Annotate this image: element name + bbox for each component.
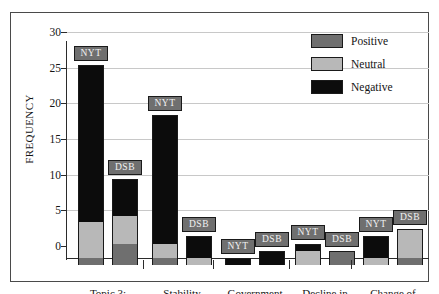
bar-group: NYTDSB	[219, 51, 291, 265]
y-tick-label: 0	[17, 241, 61, 251]
y-tick-15: 15	[11, 134, 61, 144]
bar-label-nyt: NYT	[359, 217, 393, 232]
x-axis-group-separator	[351, 260, 352, 269]
legend: PositiveNeutralNegative	[311, 31, 431, 100]
bar-segment-negative	[79, 66, 103, 222]
bar-segment-neutral	[398, 230, 422, 258]
bar-nyt[interactable]	[78, 65, 104, 265]
bar-segment-positive	[113, 244, 137, 265]
bar-dsb[interactable]	[112, 179, 138, 265]
bar-label-dsb: DSB	[182, 217, 216, 232]
bar-segment-negative	[113, 180, 137, 215]
bar-segment-neutral	[153, 244, 177, 258]
legend-item-negative[interactable]: Negative	[311, 77, 431, 96]
bar-nyt[interactable]	[225, 258, 251, 265]
legend-label: Neutral	[351, 58, 385, 70]
bar-label-dsb: DSB	[255, 232, 289, 247]
y-tick-0: 0	[11, 241, 61, 251]
y-tick-label: 20	[17, 98, 61, 108]
bar-segment-negative	[187, 237, 211, 258]
bar-segment-negative	[153, 116, 177, 244]
bar-group-bars: NYTDSB	[149, 51, 215, 265]
y-tick-label: 30	[17, 27, 61, 37]
bar-segment-neutral	[113, 216, 137, 244]
bar-group: NYTDSB	[71, 51, 145, 265]
chart-page: FREQUENCY 051015202530 NYTDSBTopic 3:Tot…	[0, 0, 439, 294]
bar-nyt[interactable]	[363, 236, 389, 265]
bar-segment-negative	[226, 259, 250, 265]
x-axis-group-separator	[143, 260, 144, 269]
legend-swatch-negative	[311, 80, 343, 94]
bar-dsb[interactable]	[397, 229, 423, 265]
bar-label-nyt: NYT	[74, 46, 108, 61]
bar-dsb[interactable]	[259, 251, 285, 265]
bar-segment-negative	[260, 252, 284, 265]
bar-segment-neutral	[79, 222, 103, 257]
bar-label-nyt: NYT	[291, 225, 325, 240]
y-tick-20: 20	[11, 98, 61, 108]
bar-label-dsb: DSB	[108, 160, 142, 175]
bar-segment-positive	[79, 258, 103, 265]
x-axis-group-separator	[213, 260, 214, 269]
y-tick-label: 25	[17, 63, 61, 73]
bar-segment-positive	[398, 258, 422, 265]
bar-label-nyt: NYT	[221, 239, 255, 254]
bar-group: NYTDSB	[149, 51, 215, 265]
y-tick-25: 25	[11, 63, 61, 73]
bar-segment-negative	[364, 237, 388, 258]
x-axis-category-label: Change ofLeadership	[347, 287, 439, 294]
bar-segment-neutral	[187, 258, 211, 265]
bar-segment-positive	[153, 258, 177, 265]
y-tick-30: 30	[11, 27, 61, 37]
bar-group-bars: NYTDSB	[219, 51, 291, 265]
bar-nyt[interactable]	[152, 115, 178, 265]
bar-label-dsb: DSB	[325, 232, 359, 247]
bar-label-nyt: NYT	[148, 96, 182, 111]
figure-frame: FREQUENCY 051015202530 NYTDSBTopic 3:Tot…	[10, 12, 429, 282]
legend-swatch-neutral	[311, 57, 343, 71]
bar-group-bars: NYTDSB	[71, 51, 145, 265]
legend-label: Positive	[351, 35, 388, 47]
legend-swatch-positive	[311, 34, 343, 48]
y-tick-label: 5	[17, 205, 61, 215]
y-tick-10: 10	[11, 170, 61, 180]
y-tick-label: 15	[17, 134, 61, 144]
y-tick-5: 5	[11, 205, 61, 215]
bar-segment-negative	[296, 245, 320, 252]
bar-nyt[interactable]	[295, 244, 321, 265]
bar-segment-neutral	[296, 251, 320, 265]
legend-item-positive[interactable]: Positive	[311, 31, 431, 50]
bar-segment-neutral	[364, 258, 388, 265]
bar-dsb[interactable]	[186, 236, 212, 265]
y-tick-label: 10	[17, 170, 61, 180]
legend-label: Negative	[351, 81, 393, 93]
x-axis-group-separator	[289, 260, 290, 269]
bar-label-dsb: DSB	[393, 210, 427, 225]
legend-item-neutral[interactable]: Neutral	[311, 54, 431, 73]
category-label-line1: Change of	[347, 287, 439, 294]
